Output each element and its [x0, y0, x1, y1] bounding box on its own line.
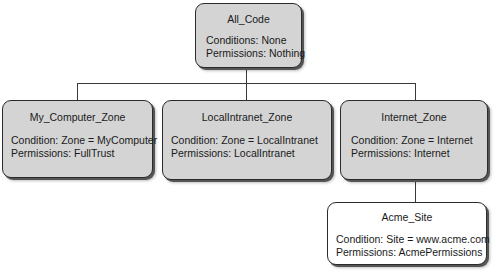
node-internet-zone: Internet_Zone Condition: Zone = Internet… — [340, 100, 488, 180]
connector-mycomputer — [77, 83, 78, 100]
node-permissions: Permissions: Internet — [351, 147, 487, 160]
node-condition: Conditions: None — [206, 34, 301, 47]
connector-acme — [415, 180, 416, 202]
node-body: Condition: Zone = LocalIntranet Permissi… — [163, 134, 331, 160]
node-permissions: Permissions: Nothing — [206, 47, 301, 60]
node-body: Condition: Site = www.acme.com Permissio… — [328, 233, 486, 259]
node-permissions: Permissions: FullTrust — [11, 147, 152, 160]
node-body: Condition: Zone = Internet Permissions: … — [341, 134, 487, 160]
node-title: All_Code — [196, 13, 301, 26]
node-title: Acme_Site — [328, 211, 486, 224]
node-title: My_Computer_Zone — [3, 111, 152, 124]
node-condition: Condition: Zone = MyComputer — [11, 134, 152, 147]
node-condition: Condition: Zone = LocalIntranet — [171, 134, 331, 147]
node-title: Internet_Zone — [341, 111, 487, 124]
node-body: Condition: Zone = MyComputer Permissions… — [3, 134, 152, 160]
node-body: Conditions: None Permissions: Nothing — [196, 34, 301, 60]
node-title: LocalIntranet_Zone — [163, 111, 331, 124]
node-localintranet-zone: LocalIntranet_Zone Condition: Zone = Loc… — [162, 100, 332, 180]
connector-localintranet — [246, 83, 247, 100]
node-permissions: Permissions: AcmePermissions — [336, 246, 486, 259]
connector-root-down — [246, 68, 247, 84]
node-condition: Condition: Site = www.acme.com — [336, 233, 486, 246]
node-condition: Condition: Zone = Internet — [351, 134, 487, 147]
connector-internet — [415, 83, 416, 100]
node-all-code: All_Code Conditions: None Permissions: N… — [195, 3, 302, 68]
node-my-computer-zone: My_Computer_Zone Condition: Zone = MyCom… — [2, 100, 153, 178]
node-acme-site: Acme_Site Condition: Site = www.acme.com… — [327, 202, 487, 265]
node-permissions: Permissions: LocalIntranet — [171, 147, 331, 160]
